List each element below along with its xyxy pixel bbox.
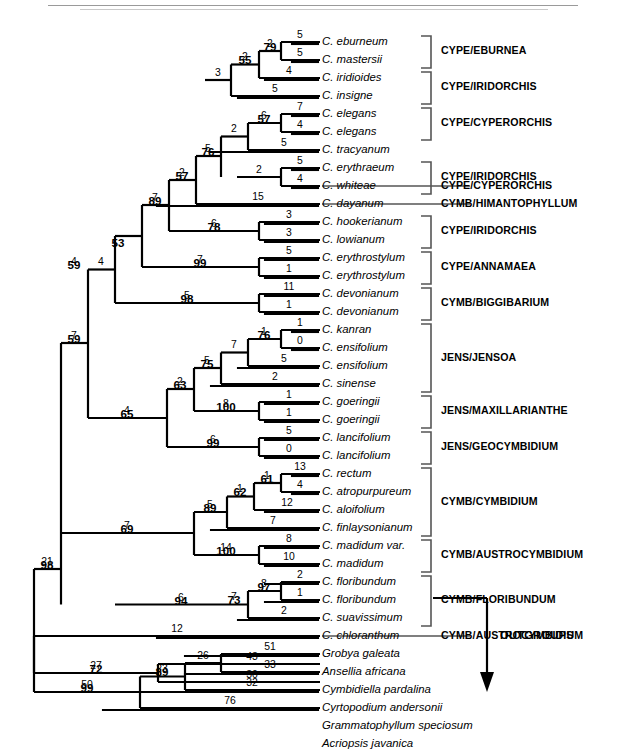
branch-length-bl_t29: 10 <box>283 552 295 562</box>
taxon-label-28: C. madidum var. <box>322 540 405 551</box>
taxon-label-35: Ansellia africana <box>322 666 406 677</box>
taxon-label-37: Cyrtopodium andersonii <box>322 702 442 713</box>
taxon-label-5: C. elegans <box>322 126 376 137</box>
bootstrap-value-bs_55: 55 <box>239 54 252 66</box>
taxon-label-12: C. erythrostylum <box>322 252 405 263</box>
clade-label-cl9: JENS/JENSOA <box>441 352 516 363</box>
branch-length-bl_n4top: 4 <box>98 257 104 267</box>
bootstrap-value-bs_63: 63 <box>174 379 187 391</box>
taxon-label-3: C. insigne <box>322 90 373 101</box>
taxon-label-9: C. dayanum <box>322 198 383 209</box>
clade-label-cl10: JENS/MAXILLARIANTHE <box>441 405 568 416</box>
branch-length-bl_t3: 5 <box>272 84 278 94</box>
clade-label-cl0: CYPE/EBURNEA <box>441 45 526 56</box>
bootstrap-value-bs_61: 61 <box>261 473 274 485</box>
branch-length-bl_t24: 13 <box>294 462 306 472</box>
taxon-label-26: C. aloifolium <box>322 504 385 515</box>
clade-label-cl2: CYPE/CYPERORCHIS <box>441 117 552 128</box>
taxon-label-17: C. ensifolium <box>322 342 388 353</box>
branch-length-bl_t38: 43 <box>246 652 258 662</box>
bootstrap-value-bs_72: 72 <box>90 663 103 675</box>
branch-length-bl_t21: 1 <box>286 408 292 418</box>
branch-length-bl_t18: 5 <box>281 354 287 364</box>
branch-length-bl_t10: 3 <box>286 210 292 220</box>
bootstrap-value-bs_98root: 98 <box>41 559 54 571</box>
branch-length-bl_t9: 15 <box>252 192 264 202</box>
bootstrap-value-bs_69: 69 <box>121 523 134 535</box>
branch-length-bl_n_eryth: 2 <box>256 165 262 175</box>
branch-length-bl_t14: 11 <box>284 282 295 292</box>
taxon-label-23: C. lancifolium <box>322 450 390 461</box>
taxon-label-7: C. erythraeum <box>322 162 394 173</box>
clade-label-cl1: CYPE/IRIDORCHIS <box>441 81 537 92</box>
branch-length-bl_t30: 2 <box>297 570 303 580</box>
taxon-label-10: C. hookerianum <box>322 216 402 227</box>
bootstrap-value-bs_76: 76 <box>202 146 215 158</box>
taxon-label-27: C. finlaysonianum <box>322 522 413 533</box>
branch-length-bl_t25: 4 <box>297 480 303 490</box>
taxon-label-6: C. tracyanum <box>322 144 390 155</box>
branch-length-bl_t27: 7 <box>270 516 276 526</box>
branch-length-bl_t31: 1 <box>297 588 303 598</box>
taxon-label-36: Cymbidiella pardalina <box>322 684 431 695</box>
branch-length-bl_n2a: 2 <box>231 124 237 134</box>
taxon-label-16: C. kanran <box>322 324 371 335</box>
bootstrap-value-bs_65: 65 <box>121 408 134 420</box>
taxon-label-24: C. rectum <box>322 468 371 479</box>
bootstrap-value-bs_53: 53 <box>112 237 125 249</box>
taxon-label-4: C. elegans <box>322 108 376 119</box>
bootstrap-value-bs_89: 89 <box>149 195 162 207</box>
bootstrap-value-bs_97: 97 <box>258 581 271 593</box>
branch-length-bl_t8: 4 <box>297 174 303 184</box>
clade-label-cl6: CYPE/IRIDORCHIS <box>441 225 537 236</box>
branch-length-bl_t39: 30 <box>246 670 258 680</box>
taxon-label-1: C. mastersii <box>322 54 382 65</box>
bootstrap-value-bs_57cyp: 57 <box>258 113 271 125</box>
bootstrap-value-bs_100aus: 100 <box>216 545 235 557</box>
clade-label-cl14: CYMB/FLORIBUNDUM <box>441 594 556 605</box>
bootstrap-value-bs_62: 62 <box>234 486 247 498</box>
clade-label-cl8: CYMB/BIGGIBARIUM <box>441 297 549 308</box>
bootstrap-value-bs_76j: 76 <box>258 329 271 341</box>
bootstrap-value-bs_57b: 57 <box>176 170 189 182</box>
bootstrap-value-bs_59b: 59 <box>68 333 81 345</box>
bootstrap-value-bs_75: 75 <box>201 358 214 370</box>
branch-length-bl_t1: 5 <box>297 48 303 58</box>
branch-length-bl_t20: 1 <box>286 390 292 400</box>
branch-length-bl_t26: 12 <box>281 498 293 508</box>
clade-label-cl13: CYMB/AUSTROCYMBIDIUM <box>441 549 583 560</box>
bootstrap-value-bs_89c: 89 <box>204 502 217 514</box>
branch-length-bl_t37: 76 <box>224 696 236 706</box>
taxon-label-13: C. erythrostylum <box>322 270 405 281</box>
branch-length-bl_t12: 5 <box>286 246 292 256</box>
branch-length-bl_t4: 7 <box>297 102 303 112</box>
bootstrap-value-bs_59: 59 <box>68 259 81 271</box>
branch-length-bl_t19: 2 <box>272 372 278 382</box>
branch-length-bl_t7: 5 <box>297 156 303 166</box>
taxon-label-8: C. whiteae <box>322 180 376 191</box>
branch-length-bl_t28: 8 <box>286 534 292 544</box>
taxon-label-0: C. eburneum <box>322 36 388 47</box>
branch-length-bl_t5: 4 <box>297 120 303 130</box>
branch-length-bl_t16: 1 <box>297 318 303 328</box>
taxon-label-31: C. floribundum <box>322 594 396 605</box>
bootstrap-value-bs_89o: 89 <box>156 666 169 678</box>
branch-length-bl_n26: 26 <box>197 651 209 661</box>
taxon-label-14: C. devonianum <box>322 288 399 299</box>
branch-length-bl_t17: 0 <box>297 336 303 346</box>
taxon-label-39: Acriopsis javanica <box>322 738 413 749</box>
bootstrap-value-bs_99o: 99 <box>81 682 94 694</box>
taxon-label-18: C. ensifolium <box>322 360 388 371</box>
taxon-label-30: C. floribundum <box>322 576 396 587</box>
taxon-label-2: C. iridioides <box>322 72 382 83</box>
taxon-label-38: Grammatophyllum speciosum <box>322 720 473 731</box>
branch-length-bl_t6: 5 <box>281 138 287 148</box>
branch-length-bl_t11: 3 <box>286 228 292 238</box>
taxon-label-32: C. suavissimum <box>322 612 402 623</box>
taxon-label-21: C. goeringii <box>322 414 380 425</box>
branch-length-bl_t2: 4 <box>286 66 292 76</box>
branch-length-bl_t35: 33 <box>264 660 276 670</box>
bootstrap-value-bs_100max: 100 <box>216 401 235 413</box>
